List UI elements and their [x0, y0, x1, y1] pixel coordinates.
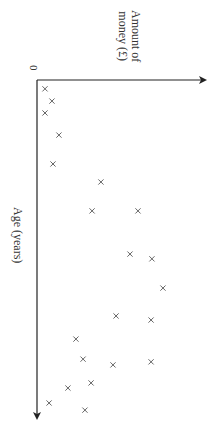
money-axis-label: Amount of money (£) [116, 10, 142, 62]
data-point-marker [148, 317, 153, 322]
data-point-marker [56, 132, 61, 137]
data-point-marker [113, 313, 118, 318]
data-point-marker [46, 400, 51, 405]
data-point-marker [73, 336, 78, 341]
data-point-marker [98, 179, 103, 184]
age-axis-label: Age (years) [11, 207, 24, 263]
data-point-marker [49, 98, 54, 103]
data-point-marker [42, 110, 47, 115]
data-point-marker [110, 362, 115, 367]
data-point-marker [89, 208, 94, 213]
data-points [42, 86, 165, 413]
money-axis-label-line1: Amount of [129, 10, 142, 62]
origin-label: 0 [27, 65, 40, 71]
data-point-marker [82, 408, 87, 413]
data-point-marker [135, 208, 140, 213]
data-point-marker [42, 86, 47, 91]
data-point-marker [148, 359, 153, 364]
data-point-marker [50, 161, 55, 166]
data-point-marker [65, 385, 70, 390]
data-point-marker [127, 251, 132, 256]
data-point-marker [160, 285, 165, 290]
money-axis-label-line2: money (£) [116, 10, 129, 62]
data-point-marker [88, 380, 93, 385]
data-point-marker [149, 256, 154, 261]
data-point-marker [80, 357, 85, 362]
